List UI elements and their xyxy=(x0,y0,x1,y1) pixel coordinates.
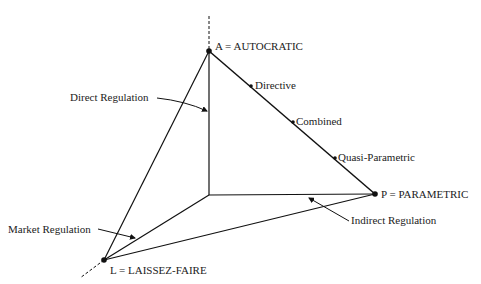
point-directive xyxy=(249,84,253,88)
arrow-market-regulation xyxy=(98,229,135,238)
label-directive: Directive xyxy=(255,80,296,91)
point-combined xyxy=(291,120,295,124)
vertex-p xyxy=(372,191,378,197)
edge-a-l xyxy=(104,51,209,260)
label-laissez-faire: L = LAISSEZ-FAIRE xyxy=(110,265,207,276)
label-market-regulation: Market Regulation xyxy=(8,224,91,235)
edge-l-p xyxy=(104,194,375,260)
axis-horizontal xyxy=(209,194,375,195)
label-combined: Combined xyxy=(296,116,342,127)
axis-depth-dashed xyxy=(80,260,104,278)
label-direct-regulation: Direct Regulation xyxy=(70,92,149,103)
point-quasi-parametric xyxy=(333,156,337,160)
label-parametric: P = PARAMETRIC xyxy=(381,189,468,200)
vertex-l xyxy=(101,257,107,263)
vertex-a xyxy=(206,48,212,54)
label-indirect-regulation: Indirect Regulation xyxy=(351,215,436,226)
label-autocratic: A = AUTOCRATIC xyxy=(215,41,303,52)
label-quasi-parametric: Quasi-Parametric xyxy=(338,152,415,163)
